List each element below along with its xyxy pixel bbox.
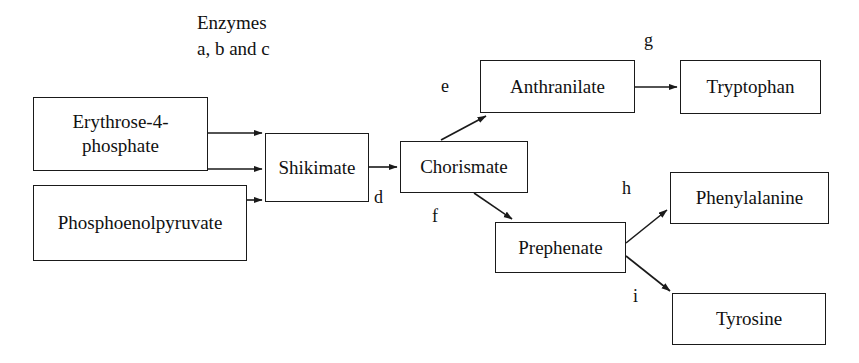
pathway-diagram: Enzymes a, b and c Erythrose-4- phosphat… xyxy=(0,0,859,363)
edge-label-d: d xyxy=(374,188,383,206)
node-tryptophan[interactable]: Tryptophan xyxy=(680,60,821,114)
node-shikimate[interactable]: Shikimate xyxy=(265,133,369,202)
edge-prephenate-to-phenylalanine xyxy=(626,210,667,243)
edge-chorismate-to-anthranilate xyxy=(441,116,486,140)
node-chorismate[interactable]: Chorismate xyxy=(400,141,528,193)
node-prephenate[interactable]: Prephenate xyxy=(495,222,626,273)
edge-label-g: g xyxy=(644,31,653,49)
node-erythrose-4-phosphate[interactable]: Erythrose-4- phosphate xyxy=(33,97,208,171)
edge-label-h: h xyxy=(622,179,631,197)
node-phosphoenolpyruvate[interactable]: Phosphoenolpyruvate xyxy=(33,185,247,261)
node-phenylalanine[interactable]: Phenylalanine xyxy=(670,172,829,224)
node-anthranilate[interactable]: Anthranilate xyxy=(480,60,635,113)
edge-chorismate-to-prephenate xyxy=(474,193,512,219)
edge-label-f: f xyxy=(432,207,438,225)
enzymes-caption: Enzymes a, b and c xyxy=(197,10,270,61)
node-tyrosine[interactable]: Tyrosine xyxy=(672,293,826,345)
edge-label-i: i xyxy=(633,287,638,305)
edge-label-e: e xyxy=(441,77,449,95)
